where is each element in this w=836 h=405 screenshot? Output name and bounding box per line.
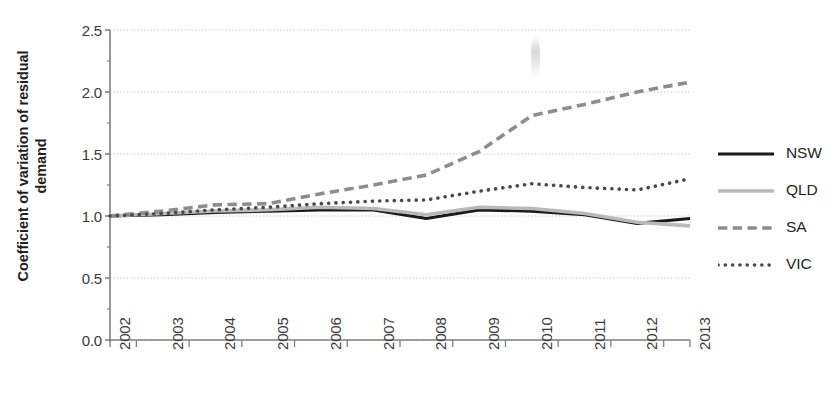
x-tick-label: 2003 (169, 317, 186, 350)
y-tick-label: 2.0 (58, 84, 102, 101)
legend-swatch-nsw (718, 150, 774, 156)
y-tick-label: 1.0 (58, 208, 102, 225)
y-axis-title: Coefficient of variation of residual dem… (14, 6, 50, 326)
x-tick-label: 2004 (221, 317, 238, 350)
y-tick-label: 0.0 (58, 332, 102, 349)
scan-artifact (531, 36, 540, 78)
y-tick-label: 2.5 (58, 22, 102, 39)
x-tick-label: 2002 (116, 317, 133, 350)
y-tick-label: 1.5 (58, 146, 102, 163)
y-tick-label: 0.5 (58, 270, 102, 287)
x-tick-label: 2008 (432, 317, 449, 350)
legend-label-sa: SA (786, 218, 806, 236)
x-tick-label: 2013 (696, 317, 713, 350)
legend-label-nsw: NSW (786, 144, 822, 162)
chart-figure: Coefficient of variation of residual dem… (0, 0, 836, 405)
series-line-sa (110, 82, 690, 216)
x-tick-label: 2012 (643, 317, 660, 350)
x-tick-label: 2006 (327, 317, 344, 350)
legend-label-vic: VIC (786, 255, 812, 273)
legend-label-qld: QLD (786, 181, 818, 199)
legend-swatch-vic (718, 261, 774, 267)
x-tick-label: 2011 (591, 319, 608, 350)
x-tick-label: 2010 (538, 317, 555, 350)
x-tick-label: 2009 (485, 317, 502, 350)
legend-swatch-sa (718, 224, 774, 230)
x-tick-label: 2005 (274, 317, 291, 350)
legend-swatch-qld (718, 187, 774, 193)
x-tick-label: 2007 (380, 317, 397, 350)
